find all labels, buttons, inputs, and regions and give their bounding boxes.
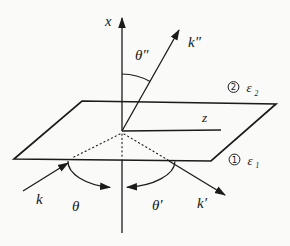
lower-medium-symbol: ε — [248, 153, 254, 168]
incident-ray-label: k — [36, 191, 43, 207]
incidence-angle-arc — [68, 161, 110, 187]
projection-dotted-right — [124, 134, 168, 160]
reflected-ray — [169, 161, 225, 195]
incident-ray — [23, 163, 68, 191]
figure-canvas: x z k″ θ″ k k′ θ θ′ 2 ε 2 — [0, 0, 290, 246]
reflected-ray-label: k′ — [197, 195, 208, 211]
lower-medium-number: 1 — [232, 155, 237, 165]
x-axis-label: x — [104, 13, 112, 29]
refracted-ray — [122, 30, 179, 131]
projection-dotted-left — [72, 134, 120, 158]
interface-diagram: x z k″ θ″ k k′ θ θ′ 2 ε 2 — [0, 0, 290, 246]
z-axis-line — [122, 130, 221, 131]
upper-medium-number: 2 — [231, 82, 236, 92]
z-axis-label: z — [201, 110, 208, 125]
incidence-angle-label: θ — [72, 198, 80, 214]
refraction-angle-label: θ″ — [135, 47, 149, 63]
upper-medium-symbol: ε — [247, 80, 253, 95]
reflection-angle-arc — [127, 162, 175, 188]
refracted-ray-label: k″ — [188, 34, 202, 50]
upper-medium-label: 2 ε 2 — [228, 80, 258, 98]
refraction-angle-arc — [122, 74, 150, 82]
lower-medium-label: 1 ε 1 — [229, 153, 259, 171]
lower-medium-subscript: 1 — [256, 161, 260, 170]
upper-medium-subscript: 2 — [255, 89, 259, 98]
reflection-angle-label: θ′ — [152, 197, 163, 213]
